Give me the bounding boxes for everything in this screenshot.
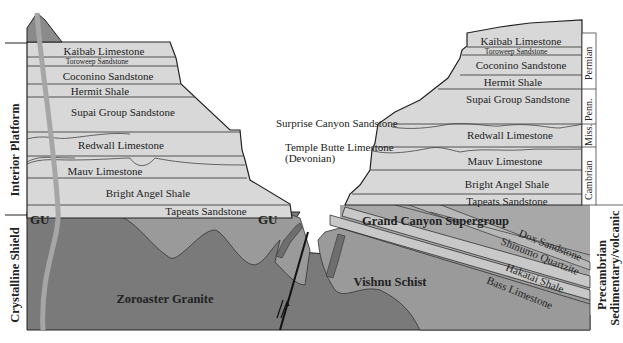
left-layer-mauv: Mauv Limestone [68,165,143,177]
right-layer-mauv: Mauv Limestone [468,155,543,167]
period-label-permian: Permian [583,47,594,80]
period-column: Permian Penn. Miss. Cambrian [582,33,623,205]
left-layer-coconino: Coconino Sandstone [63,70,154,82]
side-label-interior-platform: Interior Platform [8,103,22,197]
summit-peak [27,13,62,42]
right-layer-hermit: Hermit Shale [484,76,542,88]
left-layer-supai: Supai Group Sandstone [71,106,175,118]
right-layer-redwall: Redwall Limestone [467,129,553,141]
supergroup-title: Grand Canyon Supergroup [362,214,509,228]
side-label-sedimentary-volcanic: Sedimentary/volcanic [608,210,622,326]
label-vishnu-schist: Vishnu Schist [354,275,428,289]
period-label-penn: Penn. [583,99,594,122]
label-zoroaster-granite: Zoroaster Granite [116,292,214,306]
side-label-crystalline-shield: Crystalline Shield [8,227,22,323]
right-layer-toroweep: Toroweep Sandstone [485,47,548,56]
right-layer-coconino: Coconino Sandstone [476,59,567,71]
left-layer-kaibab: Kaibab Limestone [64,45,145,57]
right-layer-tapeats: Tapeats Sandstone [466,195,548,207]
left-layer-toroweep: Toroweep Sandstone [66,57,129,66]
gu-label-center: GU [258,212,278,227]
callout-temple-butte-age: (Devonian) [285,152,335,165]
cross-section-diagram: Permian Penn. Miss. Cambrian Kaibab Lime… [0,0,623,343]
gu-label-left: GU [30,212,50,227]
left-layer-redwall: Redwall Limestone [78,139,164,151]
left-layer-bright-angel: Bright Angel Shale [106,187,190,199]
left-layer-tapeats: Tapeats Sandstone [165,205,247,217]
left-layer-hermit: Hermit Shale [71,85,129,97]
callout-surprise-canyon: Surprise Canyon Sandstone [276,117,398,129]
right-layer-supai: Supai Group Sandstone [466,93,570,105]
side-label-precambrian: Precambrian [595,240,609,310]
period-label-cambrian: Cambrian [583,161,594,200]
right-layer-kaibab: Kaibab Limestone [481,35,562,47]
period-label-miss: Miss. [583,124,594,146]
right-layer-bright-angel: Bright Angel Shale [465,178,549,190]
